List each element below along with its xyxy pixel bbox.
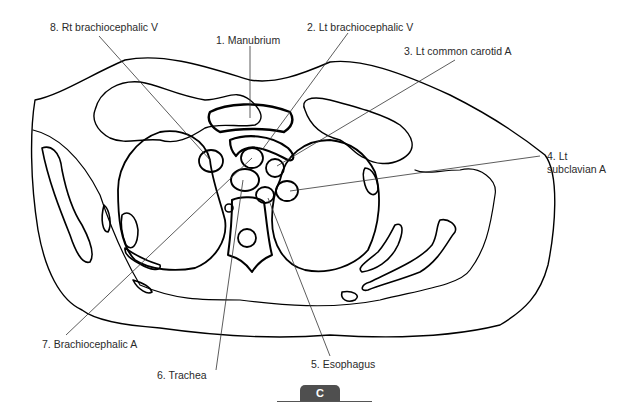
axial-chest-cross-section-drawing bbox=[0, 0, 637, 418]
leader-lines bbox=[66, 33, 540, 370]
left-rib bbox=[342, 292, 358, 302]
left-rib bbox=[360, 224, 402, 272]
vertebral-body bbox=[228, 197, 272, 272]
panel-label-rule bbox=[277, 401, 372, 402]
label-lt-brachiocephalic-vein: 2. Lt brachiocephalic V bbox=[307, 21, 413, 33]
label-brachiocephalic-artery: 7. Brachiocephalic A bbox=[42, 338, 137, 350]
manubrium bbox=[209, 104, 293, 132]
label-manubrium: 1. Manubrium bbox=[216, 34, 280, 46]
label-trachea: 6. Trachea bbox=[157, 369, 207, 381]
panel-label-badge: C bbox=[300, 385, 340, 401]
label-rt-brachiocephalic-vein: 8. Rt brachiocephalic V bbox=[50, 21, 158, 33]
leader-line-5 bbox=[268, 198, 330, 356]
leader-line-4 bbox=[290, 156, 540, 191]
lt-subclavian-artery bbox=[276, 181, 298, 201]
esophagus bbox=[256, 187, 274, 203]
right-lung bbox=[118, 131, 225, 270]
spinal-canal bbox=[238, 229, 256, 247]
left-pectoral-region bbox=[304, 98, 412, 163]
label-lt-subclavian-artery-line1: 4. Lt bbox=[547, 150, 567, 162]
lt-common-carotid-artery bbox=[266, 159, 284, 177]
leader-line-6 bbox=[216, 180, 243, 370]
right-chest-wall-rib bbox=[42, 147, 92, 262]
leader-line-3 bbox=[277, 60, 455, 166]
left-rib bbox=[362, 220, 455, 291]
trachea bbox=[231, 169, 259, 191]
lt-brachiocephalic-vein bbox=[230, 136, 293, 160]
body-outline bbox=[32, 58, 555, 337]
label-lt-common-carotid-artery: 3. Lt common carotid A bbox=[404, 45, 511, 57]
leader-line-2 bbox=[262, 33, 348, 150]
right-rib bbox=[125, 248, 160, 269]
label-lt-subclavian-artery-line2: subclavian A bbox=[547, 163, 606, 175]
label-esophagus: 5. Esophagus bbox=[311, 358, 375, 370]
